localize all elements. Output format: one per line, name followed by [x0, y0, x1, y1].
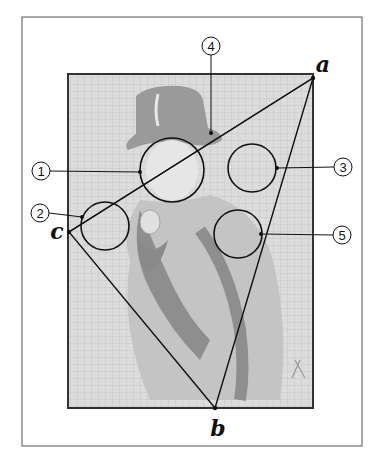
- face-shape: [146, 140, 198, 200]
- badge-1: 1: [32, 162, 50, 180]
- diagram-canvas: 1 2 3 4 5 a b c: [0, 0, 377, 473]
- badge-5-label: 5: [338, 228, 345, 243]
- badge-3: 3: [334, 158, 352, 176]
- badge-2-label: 2: [36, 206, 43, 221]
- vertex-label-c: c: [50, 218, 64, 244]
- badge-1-label: 1: [37, 164, 44, 179]
- badge-3-label: 3: [339, 160, 346, 175]
- poster-illustration: [68, 74, 313, 408]
- badge-5: 5: [333, 226, 351, 244]
- vertex-label-b: b: [210, 415, 225, 441]
- badge-2: 2: [31, 204, 49, 222]
- badge-4-label: 4: [207, 39, 214, 54]
- vertex-label-a: a: [316, 51, 330, 77]
- badge-4: 4: [202, 37, 220, 55]
